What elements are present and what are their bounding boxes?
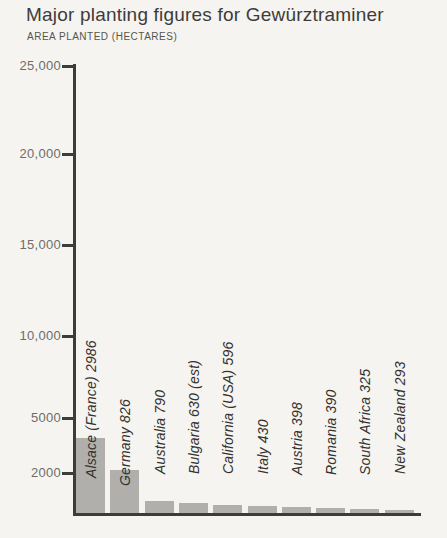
bar: [213, 505, 242, 513]
bar-label: South Africa 325: [356, 369, 374, 475]
bar-label: Germany 826: [116, 399, 134, 486]
y-tick-mark: [62, 472, 74, 475]
y-tick-mark: [62, 335, 74, 338]
y-tick-label: 10,000: [8, 328, 61, 343]
y-tick-label: 25,000: [8, 58, 61, 73]
bar-label: Austria 398: [288, 402, 306, 475]
bar: [385, 510, 414, 513]
chart-page: Major planting figures for Gewürztramine…: [0, 0, 447, 538]
y-tick-mark: [62, 65, 74, 68]
bar: [282, 507, 311, 513]
bar: [145, 501, 174, 513]
y-tick-mark: [62, 153, 74, 156]
y-tick-label: 15,000: [8, 237, 61, 252]
y-tick-label: 5000: [8, 410, 61, 425]
y-tick-label: 2000: [8, 465, 61, 480]
bar: [350, 509, 379, 513]
plot-area: 25,00020,00015,00010,00050002000 Alsace …: [0, 0, 447, 538]
bar: [316, 508, 345, 513]
bar: [248, 506, 277, 513]
bar-label: Bulgaria 630 (est): [185, 360, 203, 474]
bar-label: New Zealand 293: [391, 361, 409, 474]
bar-label: Italy 430: [254, 419, 272, 474]
x-axis-baseline: [73, 513, 421, 516]
bar-label: California (USA) 596: [219, 342, 237, 474]
y-tick-label: 20,000: [8, 146, 61, 161]
bar-label: Australia 790: [151, 390, 169, 474]
y-tick-mark: [62, 244, 74, 247]
bar-label: Alsace (France) 2986: [82, 340, 100, 478]
bar: [179, 503, 208, 513]
y-tick-mark: [62, 417, 74, 420]
bar-label: Romania 390: [322, 390, 340, 475]
